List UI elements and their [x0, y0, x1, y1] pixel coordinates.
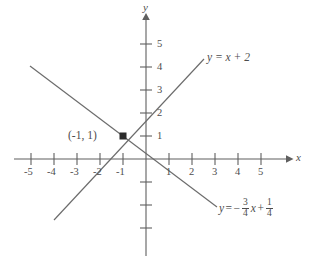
eq2-frac1-denominator: 4: [242, 209, 249, 219]
y-tick-label-5: 5: [157, 39, 162, 50]
x-tick-label-1: 1: [166, 167, 171, 178]
y-tick-label-1: 1: [157, 131, 162, 142]
line-label-y-equals-x-plus-2: y = x + 2: [207, 52, 250, 64]
y-tick-label-2: 2: [157, 108, 162, 119]
eq2-plus: +: [257, 203, 264, 215]
eq2-minus: −: [234, 203, 241, 215]
x-tick-label--4: -4: [47, 167, 56, 178]
graph-canvas: [0, 0, 309, 263]
line-label-y-equals-neg-three-quarters-x-plus-one-quarter: y = − 3 4 x + 1 4: [219, 198, 273, 219]
eq2-fraction-three-fourths: 3 4: [242, 198, 249, 219]
eq2-frac2-numerator: 1: [266, 198, 273, 208]
x-tick-label--2: -2: [93, 167, 102, 178]
eq2-fraction-one-fourth: 1 4: [266, 198, 273, 219]
x-axis-label: x: [296, 152, 301, 163]
intersection-point-marker: [120, 133, 127, 140]
eq2-frac1-numerator: 3: [242, 198, 249, 208]
coordinate-plane-figure: -5 -4 -3 -2 -1 1 2 3 4 5 1 2 3 4 5 y x (…: [0, 0, 309, 263]
intersection-point-label: (-1, 1): [68, 130, 97, 142]
y-tick-label-4: 4: [157, 62, 162, 73]
y-axis-arrowhead: [142, 13, 150, 20]
y-tick-label-3: 3: [157, 85, 162, 96]
x-tick-label-5: 5: [258, 167, 263, 178]
x-tick-label--5: -5: [24, 167, 33, 178]
x-tick-label--1: -1: [116, 167, 125, 178]
x-tick-label-2: 2: [189, 167, 194, 178]
x-tick-label-4: 4: [235, 167, 240, 178]
eq2-equals: =: [226, 203, 233, 215]
x-axis-arrowhead: [286, 155, 294, 163]
eq2-frac2-denominator: 4: [266, 209, 273, 219]
eq2-lhs: y: [219, 203, 224, 215]
eq2-variable: x: [251, 203, 256, 215]
y-axis-label: y: [143, 2, 148, 13]
x-tick-label-3: 3: [212, 167, 217, 178]
x-tick-label--3: -3: [70, 167, 79, 178]
